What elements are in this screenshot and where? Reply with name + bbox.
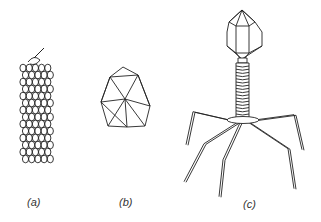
tail-sheath (236, 63, 249, 118)
label-c: (c) (243, 198, 256, 210)
helical-virus (20, 48, 54, 163)
bacteriophage (184, 10, 304, 197)
icosahedral-virus (101, 67, 150, 127)
virus-diagram (0, 0, 321, 222)
label-b: (b) (119, 196, 132, 208)
label-a: (a) (27, 196, 40, 208)
